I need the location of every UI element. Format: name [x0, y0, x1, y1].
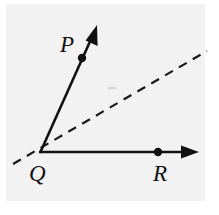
- figure-container: P Q R: [0, 0, 219, 215]
- point-r-dot: [154, 148, 162, 156]
- point-r-label: R: [152, 161, 167, 186]
- point-p-dot: [78, 54, 86, 62]
- point-p-label: P: [59, 32, 74, 57]
- geometry-figure: P Q R: [0, 0, 219, 215]
- scan-smudge: [107, 86, 117, 89]
- point-q-label: Q: [29, 161, 46, 186]
